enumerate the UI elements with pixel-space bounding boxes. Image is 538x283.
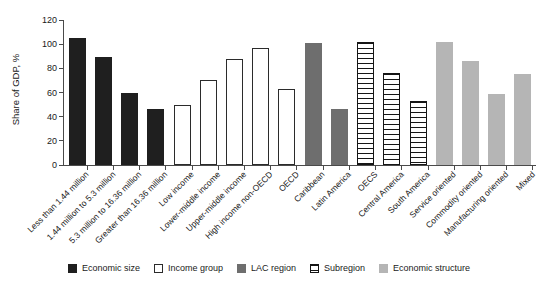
bar — [410, 101, 427, 165]
bar — [357, 42, 374, 165]
bar — [200, 80, 217, 165]
legend-label: Income group — [168, 263, 223, 273]
x-axis-tick — [323, 166, 324, 170]
legend-label: Economic structure — [393, 263, 470, 273]
legend-item: Economic size — [68, 263, 140, 273]
bar — [278, 89, 295, 165]
x-axis-tick — [401, 166, 402, 170]
x-axis-tick — [375, 166, 376, 170]
bar — [488, 94, 505, 165]
x-axis-tick — [218, 166, 219, 170]
bar — [121, 93, 138, 166]
x-axis-tick — [87, 166, 88, 170]
x-axis-tick — [349, 166, 350, 170]
x-tick-label: OECS — [356, 170, 379, 193]
y-axis-tick — [59, 140, 63, 141]
legend-swatch-solid-dark-gray — [237, 264, 246, 273]
x-axis-tick — [428, 166, 429, 170]
plot-area: 020406080100120Less than 1.44 million1.4… — [63, 20, 536, 166]
y-axis-title: Share of GDP, % — [10, 44, 21, 136]
x-axis-tick — [113, 166, 114, 170]
y-tick-label: 100 — [28, 39, 57, 49]
legend-swatch-horizontal-hatch — [310, 264, 319, 273]
x-axis-tick — [532, 166, 533, 170]
legend-label: LAC region — [251, 263, 296, 273]
legend-swatch-solid-light-gray — [379, 264, 388, 273]
x-axis-tick — [480, 166, 481, 170]
y-tick-label: 0 — [28, 160, 57, 170]
bar — [69, 38, 86, 165]
bar — [147, 109, 164, 165]
x-tick-label: Mixed — [514, 170, 536, 192]
legend-item: Economic structure — [379, 263, 470, 273]
legend-label: Subregion — [324, 263, 365, 273]
legend-item: Income group — [154, 263, 223, 273]
y-tick-label: 60 — [28, 88, 57, 98]
x-axis-tick — [296, 166, 297, 170]
bar — [305, 43, 322, 165]
legend-item: Subregion — [310, 263, 365, 273]
y-axis-tick — [59, 44, 63, 45]
bar — [331, 109, 348, 165]
x-axis-tick — [506, 166, 507, 170]
bar-chart-figure: Share of GDP, % 020406080100120Less than… — [0, 0, 538, 283]
x-axis-tick — [454, 166, 455, 170]
y-tick-label: 20 — [28, 136, 57, 146]
bar — [252, 48, 269, 165]
legend: Economic sizeIncome groupLAC regionSubre… — [0, 263, 538, 273]
bar — [226, 59, 243, 165]
y-tick-label: 120 — [28, 15, 57, 25]
y-axis-tick — [59, 20, 63, 21]
x-axis-tick — [244, 166, 245, 170]
bar — [383, 73, 400, 165]
y-axis-tick — [59, 165, 63, 166]
y-tick-label: 40 — [28, 112, 57, 122]
bar — [514, 74, 531, 165]
x-axis-tick — [139, 166, 140, 170]
y-axis-tick — [59, 92, 63, 93]
bar — [174, 105, 191, 165]
y-tick-label: 80 — [28, 63, 57, 73]
x-axis-tick — [270, 166, 271, 170]
x-axis-tick — [192, 166, 193, 170]
legend-label: Economic size — [82, 263, 140, 273]
x-axis-tick — [165, 166, 166, 170]
bar — [462, 61, 479, 165]
bar — [95, 57, 112, 165]
y-axis-tick — [59, 116, 63, 117]
y-axis-tick — [59, 68, 63, 69]
legend-item: LAC region — [237, 263, 296, 273]
legend-swatch-solid-black — [68, 264, 77, 273]
legend-swatch-white-outline — [154, 264, 163, 273]
bar — [436, 42, 453, 165]
